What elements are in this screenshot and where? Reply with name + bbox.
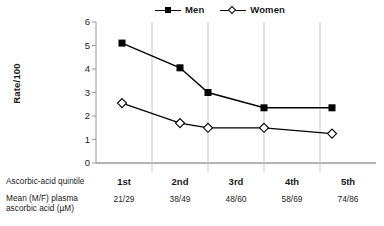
- chart-canvas: [0, 0, 384, 180]
- figure-container: Men Women Rate/100 6 5 4 3 2 1 0: [0, 0, 384, 226]
- table-row-plasma: Mean (M/F) plasma ascorbic acid (µM) 21/…: [0, 193, 384, 217]
- plasma-cell-4: 58/69: [264, 194, 320, 204]
- quintile-cell-3: 3rd: [208, 176, 264, 188]
- plot-area: Rate/100 6 5 4 3 2 1 0: [0, 0, 384, 180]
- quintile-cell-5: 5th: [320, 176, 376, 188]
- bottom-annotation-table: Ascorbic-acid quintile 1st 2nd 3rd 4th 5…: [0, 176, 384, 217]
- plasma-cell-1: 21/29: [96, 194, 152, 204]
- series-markers-women: [118, 99, 337, 139]
- plasma-cell-2: 38/49: [152, 194, 208, 204]
- y-axis-ticks: [92, 22, 96, 163]
- vertical-gridlines: [152, 22, 320, 172]
- table-row-quintile: Ascorbic-acid quintile 1st 2nd 3rd 4th 5…: [0, 176, 384, 193]
- series-markers-men: [119, 40, 336, 112]
- series-line-men: [122, 43, 332, 108]
- row-label-plasma: Mean (M/F) plasma ascorbic acid (µM): [6, 193, 110, 214]
- plasma-cell-5: 74/86: [320, 194, 376, 204]
- quintile-cell-4: 4th: [264, 176, 320, 188]
- plasma-cell-3: 48/60: [208, 194, 264, 204]
- row-label-quintile: Ascorbic-acid quintile: [6, 176, 110, 186]
- quintile-cell-2: 2nd: [152, 176, 208, 188]
- quintile-cell-1: 1st: [96, 176, 152, 188]
